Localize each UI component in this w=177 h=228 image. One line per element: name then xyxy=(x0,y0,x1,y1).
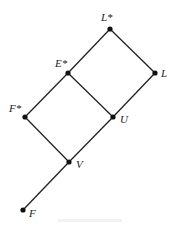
node-F xyxy=(20,207,25,212)
edge-Lstar-L xyxy=(110,29,155,73)
node-Fstar xyxy=(22,114,27,119)
node-label-V: V xyxy=(76,159,83,170)
figure-caption xyxy=(58,219,122,222)
edge-Estar-Fstar xyxy=(25,73,68,117)
node-label-F: F xyxy=(29,208,36,219)
edge-L-U xyxy=(113,73,155,117)
node-U xyxy=(110,114,115,119)
node-label-Fstar: F* xyxy=(9,103,21,114)
node-Lstar xyxy=(107,26,112,31)
node-label-U: U xyxy=(120,114,128,125)
lattice-nodes xyxy=(20,26,157,212)
lattice-diagram xyxy=(0,0,177,228)
edge-U-V xyxy=(69,117,113,162)
node-label-Estar: E* xyxy=(55,58,67,69)
edge-Fstar-V xyxy=(25,117,69,162)
lattice-edges xyxy=(23,29,155,210)
edge-Estar-U xyxy=(68,73,113,117)
node-Estar xyxy=(65,70,70,75)
edge-V-F xyxy=(23,162,69,210)
node-V xyxy=(66,159,71,164)
node-label-Lstar: L* xyxy=(101,12,113,23)
node-L xyxy=(152,70,157,75)
node-label-L: L xyxy=(161,68,167,79)
edge-Lstar-Estar xyxy=(68,29,110,73)
